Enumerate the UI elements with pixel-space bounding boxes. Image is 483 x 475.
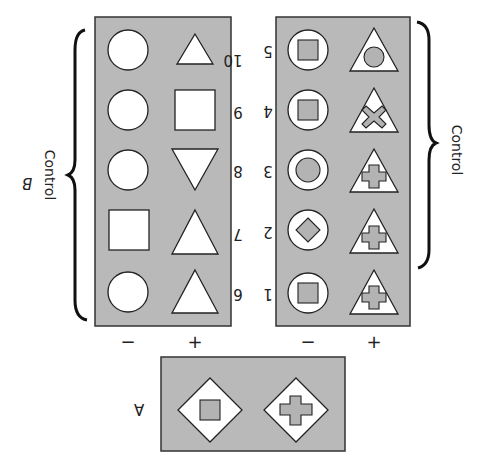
row-number: 1 xyxy=(263,285,273,303)
square-icon xyxy=(298,283,318,303)
circle-icon xyxy=(108,30,148,70)
circle-icon xyxy=(108,90,148,130)
stimulus-figure: 10 9 8 7 6 − + Control B xyxy=(0,0,483,475)
square-icon xyxy=(298,40,318,60)
column-label-minus: − xyxy=(120,331,135,352)
circle-icon xyxy=(108,150,148,190)
column-label-plus: + xyxy=(187,331,202,352)
square-icon xyxy=(175,90,215,130)
bracket-right xyxy=(417,22,436,268)
circle-icon xyxy=(108,272,148,312)
row-number: 3 xyxy=(263,162,273,180)
control-label-b: Control xyxy=(42,150,58,201)
square-icon xyxy=(109,210,149,250)
row-number: 4 xyxy=(263,102,273,120)
circle-icon xyxy=(296,158,320,182)
column-label-minus: − xyxy=(300,331,315,352)
row-number: 10 xyxy=(223,51,242,69)
circle-icon xyxy=(364,47,384,67)
row-number: 7 xyxy=(233,225,243,243)
panel-right: 5 4 3 2 1 − + Control xyxy=(263,17,465,352)
square-icon xyxy=(200,400,220,420)
bracket-b xyxy=(68,30,87,320)
panel-a-label: A xyxy=(133,400,144,418)
panel-b-label: B xyxy=(22,174,32,192)
panel-a: A xyxy=(133,357,345,451)
row-number: 8 xyxy=(233,162,243,180)
row-number: 5 xyxy=(263,42,273,60)
panel-b: 10 9 8 7 6 − + Control B xyxy=(22,17,243,352)
row-number: 6 xyxy=(233,285,243,303)
row-number: 9 xyxy=(233,103,243,121)
row-number: 2 xyxy=(263,223,273,241)
column-label-plus: + xyxy=(366,331,381,352)
control-label-right: Control xyxy=(449,125,465,176)
square-icon xyxy=(298,100,318,120)
